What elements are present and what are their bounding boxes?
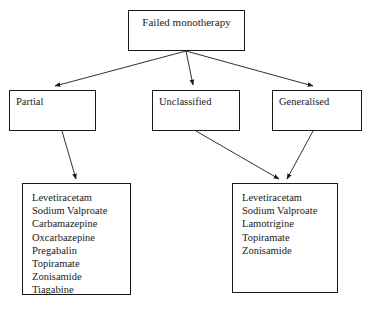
node-generalised[interactable]: Generalised xyxy=(272,90,362,131)
node-failed-monotherapy-label: Failed monotherapy xyxy=(129,11,244,29)
list-item: Topiramate xyxy=(242,231,337,244)
node-partial[interactable]: Partial xyxy=(9,90,96,131)
list-item: Zonisamide xyxy=(32,270,130,283)
connector-root-to-generalised xyxy=(186,51,313,86)
partial-drug-list: Levetiracetam Sodium Valproate Carbamaze… xyxy=(23,184,130,297)
connector-unclassified-to-list xyxy=(196,131,279,179)
list-item: Sodium Valproate xyxy=(242,204,337,217)
node-unclassified-label: Unclassified xyxy=(153,91,239,108)
connector-partial-to-list xyxy=(62,131,76,179)
connector-root-to-unclassified xyxy=(186,51,193,85)
list-item: Oxcarbazepine xyxy=(32,231,130,244)
list-item: Topiramate xyxy=(32,257,130,270)
list-item: Carbamazepine xyxy=(32,217,130,230)
flowchart-canvas: Failed monotherapy Partial Unclassified … xyxy=(0,0,374,312)
list-item: Lamotrigine xyxy=(242,217,337,230)
node-generalised-label: Generalised xyxy=(273,91,361,108)
node-partial-drug-list[interactable]: Levetiracetam Sodium Valproate Carbamaze… xyxy=(22,183,131,295)
list-item: Sodium Valproate xyxy=(32,204,130,217)
list-item: Levetiracetam xyxy=(242,191,337,204)
connector-generalised-to-list xyxy=(287,131,313,179)
connector-root-to-partial xyxy=(55,51,186,86)
node-partial-label: Partial xyxy=(10,91,95,108)
generalised-drug-list: Levetiracetam Sodium Valproate Lamotrigi… xyxy=(233,184,337,257)
node-unclassified[interactable]: Unclassified xyxy=(152,90,240,131)
list-item: Tiagabine xyxy=(32,283,130,296)
node-failed-monotherapy[interactable]: Failed monotherapy xyxy=(128,10,245,51)
node-generalised-drug-list[interactable]: Levetiracetam Sodium Valproate Lamotrigi… xyxy=(232,183,338,293)
list-item: Levetiracetam xyxy=(32,191,130,204)
list-item: Zonisamide xyxy=(242,244,337,257)
list-item: Pregabalin xyxy=(32,244,130,257)
